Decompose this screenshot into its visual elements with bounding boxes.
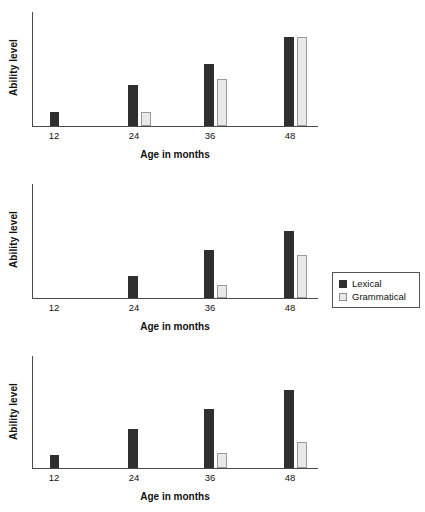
panel-1-bar-lexical-12: [50, 112, 59, 126]
panel-2-y-axis: [32, 184, 33, 299]
panel-2-bar-grammatical-48: [297, 255, 307, 298]
panel-1-bar-lexical-48: [284, 37, 294, 126]
chart-panel-2: Ability level 12 24 36 48 Age in months: [0, 172, 425, 342]
legend-label-grammatical: Grammatical: [352, 291, 406, 302]
panel-3-bar-grammatical-48: [297, 442, 307, 468]
panel-1-tick-48: 48: [270, 130, 310, 141]
panel-2-x-axis: [32, 298, 318, 299]
panel-1-y-axis: [32, 12, 33, 127]
panel-3-x-axis: [32, 468, 318, 469]
panel-2-x-axis-label: Age in months: [32, 321, 318, 332]
panel-3-bar-lexical-48: [284, 390, 294, 468]
panel-1-x-axis-label: Age in months: [32, 149, 318, 160]
panel-2-tick-24: 24: [114, 302, 154, 313]
panel-1-bar-lexical-36: [204, 64, 214, 126]
panel-2-bar-lexical-36: [204, 250, 214, 298]
legend-item-grammatical: Grammatical: [339, 290, 413, 303]
panel-2-bar-lexical-48: [284, 231, 294, 298]
panel-1-bar-grammatical-48: [297, 37, 307, 126]
panel-1-bar-grammatical-36: [217, 79, 227, 126]
legend-label-lexical: Lexical: [352, 278, 382, 289]
panel-1-y-axis-label: Ability level: [8, 8, 19, 128]
chart-panel-1: Ability level 12 24 36 48 Age in months: [0, 0, 425, 170]
panel-3-tick-48: 48: [270, 472, 310, 483]
panel-2-plot-area: 12 24 36 48 Age in months: [32, 184, 318, 299]
legend-swatch-grammatical-icon: [339, 293, 347, 301]
panel-3-plot-area: 12 24 36 48 Age in months: [32, 356, 318, 469]
chart-legend: Lexical Grammatical: [332, 272, 420, 308]
panel-3-tick-36: 36: [190, 472, 230, 483]
panel-2-tick-48: 48: [270, 302, 310, 313]
chart-panel-3: Ability level 12 24 36 48 Age in months: [0, 344, 425, 512]
panel-3-bar-grammatical-36: [217, 453, 227, 468]
panel-1-plot-area: 12 24 36 48 Age in months: [32, 12, 318, 127]
panel-2-tick-12: 12: [34, 302, 74, 313]
panel-3-x-axis-label: Age in months: [32, 491, 318, 502]
panel-1-tick-24: 24: [114, 130, 154, 141]
panel-3-tick-24: 24: [114, 472, 154, 483]
panel-3-bar-lexical-24: [128, 429, 138, 468]
panel-2-bar-lexical-24: [128, 276, 138, 298]
panel-3-y-axis-label: Ability level: [8, 352, 19, 472]
panel-1-tick-12: 12: [34, 130, 74, 141]
panel-2-bar-grammatical-36: [217, 285, 227, 298]
legend-swatch-lexical-icon: [339, 280, 347, 288]
panel-1-bar-grammatical-24: [141, 112, 151, 126]
panel-3-bar-lexical-12: [50, 455, 59, 468]
panel-3-tick-12: 12: [34, 472, 74, 483]
panel-2-y-axis-label: Ability level: [8, 180, 19, 300]
panel-3-y-axis: [32, 356, 33, 469]
panel-3-bar-lexical-36: [204, 409, 214, 468]
panel-2-tick-36: 36: [190, 302, 230, 313]
panel-1-tick-36: 36: [190, 130, 230, 141]
panel-1-x-axis: [32, 126, 318, 127]
legend-item-lexical: Lexical: [339, 277, 413, 290]
panel-1-bar-lexical-24: [128, 85, 138, 126]
